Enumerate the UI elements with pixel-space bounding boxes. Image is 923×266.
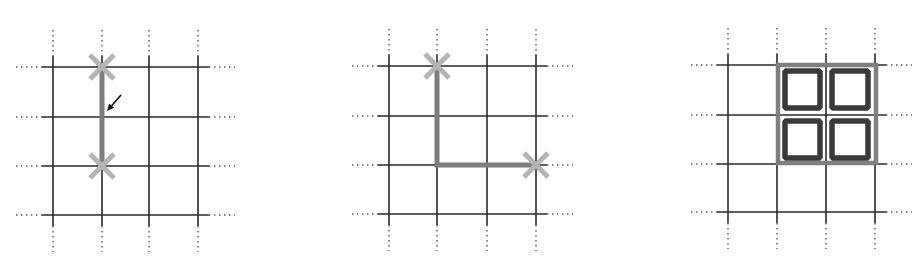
grid-lines — [378, 55, 547, 225]
panel-2-l-shaped-path — [352, 29, 573, 251]
panel-3-2x2-block — [691, 28, 912, 249]
filled-cell-square — [785, 71, 820, 108]
diagram-canvas — [0, 0, 923, 266]
filled-cell-square — [832, 71, 868, 108]
grid-lines — [42, 56, 209, 226]
panel-1-vertical-edge — [16, 30, 235, 252]
pointer-arrow-icon — [107, 95, 121, 111]
filled-cell-square — [832, 121, 868, 158]
filled-cell-square — [785, 121, 820, 158]
grid-dotted-extensions — [352, 29, 573, 251]
grid-dotted-extensions — [16, 30, 235, 252]
